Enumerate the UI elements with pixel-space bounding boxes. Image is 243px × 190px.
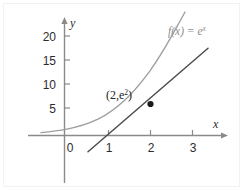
x-tick-label-0: 0 — [67, 141, 74, 155]
y-axis-arrowhead — [61, 17, 67, 24]
function-label: f(x) = ex — [168, 24, 207, 38]
tangency-point-label: (2,e2) — [106, 88, 132, 102]
function-label-exponent: x — [202, 24, 207, 33]
function-label-base: f(x) = e — [168, 25, 203, 38]
x-tick-label-3: 3 — [190, 141, 197, 155]
x-axis-label: x — [212, 117, 219, 131]
figure-container: 20 15 10 5 0 1 2 3 y x f(x) = ex (2,e2) — [0, 0, 243, 190]
y-tick-label-10: 10 — [43, 78, 57, 92]
exponential-curve — [41, 12, 185, 133]
y-tick-label-20: 20 — [43, 30, 57, 44]
x-axis-group — [28, 130, 228, 139]
x-axis-arrowhead — [221, 132, 228, 138]
x-tick-label-1: 1 — [106, 141, 113, 155]
tangency-point-label-close: ) — [128, 88, 132, 102]
tangency-point-label-base: (2,e — [106, 88, 124, 102]
y-axis-group — [61, 17, 70, 183]
y-tick-label-15: 15 — [43, 54, 57, 68]
x-tick-label-2: 2 — [148, 141, 155, 155]
y-axis-label: y — [69, 16, 76, 30]
exponential-tangent-plot: 20 15 10 5 0 1 2 3 y x f(x) = ex (2,e2) — [0, 0, 243, 190]
tangency-point-dot — [147, 101, 153, 107]
y-tick-label-5: 5 — [49, 102, 56, 116]
